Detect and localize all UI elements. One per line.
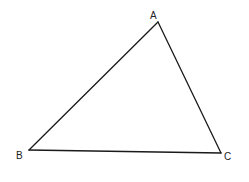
vertex-label-a: A: [150, 10, 157, 21]
vertex-label-c: C: [224, 151, 231, 162]
edge-bc: [29, 150, 221, 153]
triangle-diagram: A B C: [0, 0, 249, 182]
edge-ab: [29, 22, 158, 150]
edge-ca: [158, 22, 221, 153]
vertex-label-b: B: [16, 150, 23, 161]
